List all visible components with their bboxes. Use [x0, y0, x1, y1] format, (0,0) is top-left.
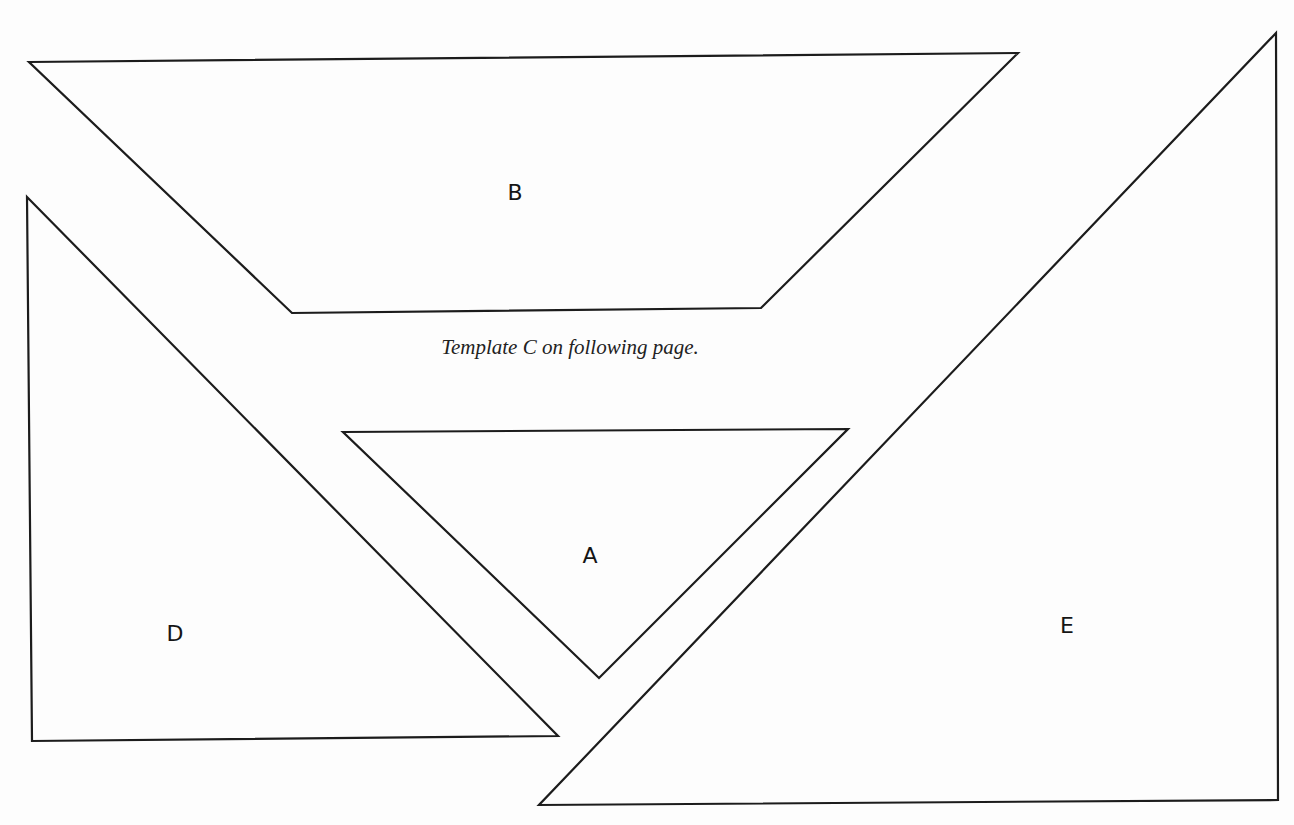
template-a-label: A [582, 543, 597, 568]
template-d-outline [27, 197, 558, 741]
template-d-label: D [167, 621, 184, 646]
template-b-outline [29, 53, 1018, 313]
template-e-outline [539, 33, 1278, 805]
template-e-label: E [1060, 613, 1074, 638]
page-caption: Template C on following page. [441, 335, 699, 360]
template-page: B D A E Template C on following page. [0, 0, 1294, 825]
template-shapes [0, 0, 1294, 825]
template-b-label: B [507, 180, 522, 205]
